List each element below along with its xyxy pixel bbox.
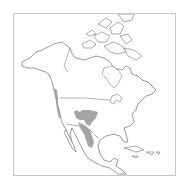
caribbean-islands [124,146,160,158]
map-frame [13,13,176,176]
greenland-edge [118,14,134,22]
arctic-archipelago [82,18,142,60]
north-america-map [14,14,176,176]
mainland-outline [22,42,156,174]
